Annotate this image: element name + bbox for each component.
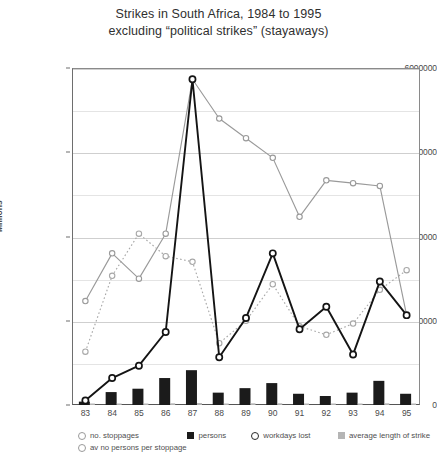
legend-row-secondary: av no persons per stoppage	[78, 442, 430, 453]
y-tick-mark	[66, 405, 70, 406]
open-circle-icon	[251, 432, 259, 440]
x-tick-label: 93	[348, 408, 357, 418]
gridline	[73, 364, 419, 365]
open-circle-icon	[78, 444, 86, 452]
chart-title-line-1: Strikes in South Africa, 1984 to 1995	[0, 6, 437, 23]
gridline	[73, 69, 419, 70]
x-tick-label: 83	[81, 408, 90, 418]
y-tick-mark	[66, 68, 70, 69]
filled-square-icon	[187, 432, 194, 439]
gridline	[73, 280, 419, 281]
legend-item-no-stoppages[interactable]: no. stoppages	[78, 430, 187, 441]
legend-label: persons	[198, 430, 226, 441]
y-tick-mark	[66, 236, 70, 237]
gridline	[73, 238, 419, 239]
open-circle-icon	[78, 432, 86, 440]
legend-label: workdays lost	[263, 430, 310, 441]
plot-area	[72, 68, 420, 405]
x-tick-label: 84	[107, 408, 116, 418]
legend-label: av no persons per stoppage	[90, 442, 187, 453]
y-tick-mark	[66, 320, 70, 321]
legend-item-persons[interactable]: persons	[187, 430, 251, 441]
strikes-chart: Strikes in South Africa, 1984 to 1995 ex…	[0, 0, 437, 463]
x-tick-label: 91	[295, 408, 304, 418]
y-axis-title: Millions	[0, 200, 4, 232]
legend-item-average-length-of-strike[interactable]: average length of strike	[338, 430, 430, 441]
x-tick-label: 86	[161, 408, 170, 418]
gridline	[73, 195, 419, 196]
legend-item-workdays-lost[interactable]: workdays lost	[251, 430, 338, 441]
x-tick-label: 90	[268, 408, 277, 418]
legend-label: average length of strike	[349, 430, 430, 441]
filled-square-icon	[338, 432, 345, 439]
chart-title: Strikes in South Africa, 1984 to 1995 ex…	[0, 6, 437, 40]
chart-legend: no. stoppages persons workdays lost aver…	[78, 430, 430, 453]
x-tick-label: 88	[214, 408, 223, 418]
x-tick-label: 89	[241, 408, 250, 418]
x-tick-label: 87	[188, 408, 197, 418]
gridline	[73, 111, 419, 112]
x-tick-label: 94	[375, 408, 384, 418]
gridline	[73, 153, 419, 154]
x-tick-label: 85	[134, 408, 143, 418]
legend-row-primary: no. stoppages persons workdays lost aver…	[78, 430, 430, 441]
x-tick-label: 95	[402, 408, 411, 418]
legend-item-av-no-persons-per-stoppage[interactable]: av no persons per stoppage	[78, 442, 187, 453]
y-tick-mark	[66, 152, 70, 153]
chart-title-line-2: excluding “political strikes” (stayaways…	[0, 23, 437, 40]
legend-label: no. stoppages	[90, 430, 139, 441]
gridline	[73, 322, 419, 323]
x-tick-label: 92	[322, 408, 331, 418]
